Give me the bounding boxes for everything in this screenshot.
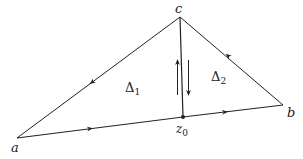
edge-c-a bbox=[17, 17, 180, 138]
edge-c-z0 bbox=[180, 17, 183, 117]
edge-a-z0 bbox=[17, 117, 183, 138]
label-a: a bbox=[11, 140, 19, 155]
label-b: b bbox=[287, 105, 295, 120]
edge-b-c bbox=[180, 17, 283, 105]
triangle-contour-diagram: c a b z0 Δ1 Δ2 bbox=[0, 0, 303, 159]
label-delta1: Δ1 bbox=[125, 80, 140, 97]
label-c: c bbox=[175, 1, 183, 16]
point-z0 bbox=[181, 115, 185, 119]
label-delta2: Δ2 bbox=[211, 69, 226, 86]
edge-z0-b bbox=[183, 105, 283, 117]
label-z0: z0 bbox=[175, 122, 188, 138]
